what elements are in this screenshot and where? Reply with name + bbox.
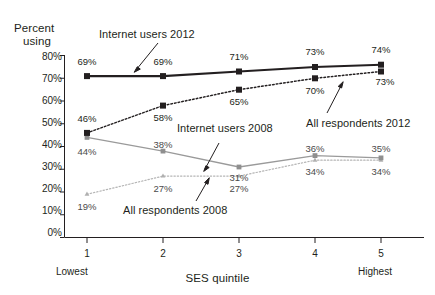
point-label-s2-1: 46% (70, 113, 104, 124)
annotation-all-respondents-2008: All respondents 2008 (123, 204, 227, 216)
arrow-internet-users-2008 (205, 143, 219, 169)
point-label-s4-1: 19% (70, 201, 104, 212)
point-label-s1-5: 74% (364, 44, 398, 55)
point-label-s4-3: 27% (222, 183, 256, 194)
point-label-s4-5: 34% (364, 166, 398, 177)
point-label-s1-1: 69% (70, 56, 104, 67)
point-label-s1-4: 73% (298, 46, 332, 57)
series-internet-users-2008-line (87, 137, 381, 167)
annotation-internet-users-2012: Internet users 2012 (99, 28, 195, 40)
point-label-s1-3: 71% (222, 51, 256, 62)
point-label-s2-3: 65% (222, 96, 256, 107)
point-label-s2-2: 58% (146, 112, 180, 123)
point-label-s2-5: 73% (368, 76, 402, 87)
annotation-all-respondents-2012: All respondents 2012 (306, 117, 410, 129)
point-label-s3-5: 35% (364, 143, 398, 154)
point-label-s3-3: 31% (222, 172, 256, 183)
annotation-internet-users-2008: Internet users 2008 (177, 122, 273, 134)
point-label-s4-4: 34% (298, 166, 332, 177)
point-label-s3-1: 44% (70, 146, 104, 157)
series-internet-users-2012-line (87, 65, 381, 76)
series-internet-users-2008-markers (85, 135, 384, 169)
point-label-s4-2: 27% (146, 183, 180, 194)
point-label-s1-2: 69% (146, 56, 180, 67)
chart-figure: Percent using 80% 70% 60% 50% 40% 30% 20… (0, 0, 435, 295)
point-label-s3-2: 38% (146, 139, 180, 150)
point-label-s2-4: 70% (298, 85, 332, 96)
point-label-s3-4: 36% (298, 143, 332, 154)
